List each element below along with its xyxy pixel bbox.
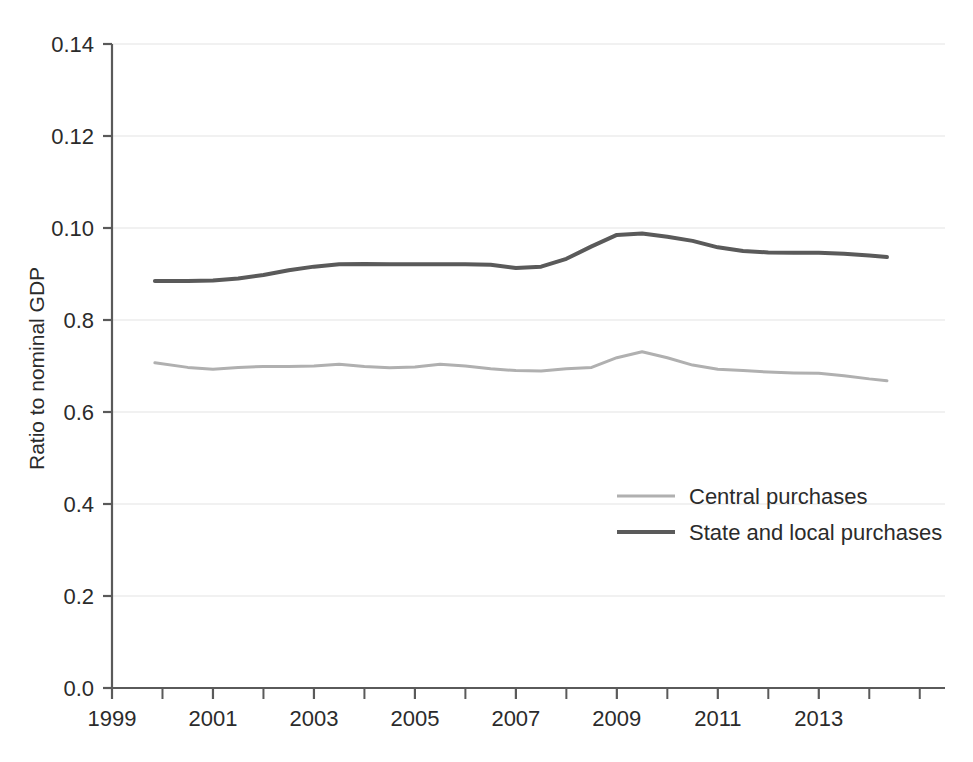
- x-tick-label-2001: 2001: [188, 706, 237, 731]
- x-tick-label-2009: 2009: [592, 706, 641, 731]
- chart-background: [0, 0, 973, 762]
- y-tick-label-0.6: 0.6: [63, 400, 94, 425]
- y-tick-label-0.4: 0.4: [63, 492, 94, 517]
- y-tick-label-0.0: 0.0: [63, 676, 94, 701]
- line-chart: 0.00.20.40.60.80.100.120.14 199920012003…: [0, 0, 973, 762]
- y-tick-label-0.10: 0.10: [51, 216, 94, 241]
- x-tick-label-2007: 2007: [491, 706, 540, 731]
- chart-figure: 0.00.20.40.60.80.100.120.14 199920012003…: [0, 0, 973, 762]
- x-tick-label-2011: 2011: [694, 706, 741, 731]
- x-tick-label-1999: 1999: [88, 706, 137, 731]
- y-axis-label-text: Ratio to nominal GDP: [25, 267, 48, 470]
- y-axis-label: Ratio to nominal GDP: [25, 267, 48, 470]
- x-tick-label-2013: 2013: [794, 706, 843, 731]
- legend-label-state-and-local-purchases: State and local purchases: [689, 520, 942, 545]
- y-tick-label-0.8: 0.8: [63, 308, 94, 333]
- y-tick-label-0.14: 0.14: [51, 32, 94, 57]
- x-tick-label-2005: 2005: [390, 706, 439, 731]
- legend-label-central-purchases: Central purchases: [689, 484, 868, 509]
- x-tick-label-2003: 2003: [289, 706, 338, 731]
- y-tick-label-0.2: 0.2: [63, 584, 94, 609]
- y-tick-label-0.12: 0.12: [51, 124, 94, 149]
